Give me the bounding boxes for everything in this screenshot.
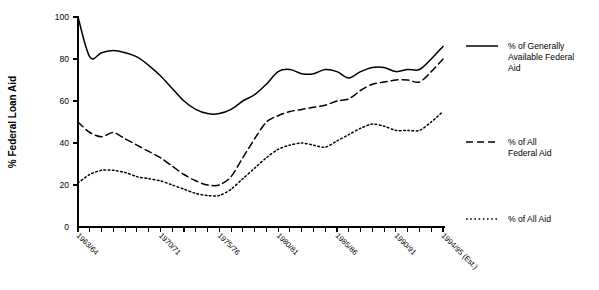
line-chart: 020406080100% Federal Loan Aid1963/64197… xyxy=(0,0,599,290)
y-axis-tick-label: 40 xyxy=(60,138,70,148)
y-axis-tick-label: 80 xyxy=(60,54,70,64)
x-axis-tick-label: 1963/64 xyxy=(75,231,101,257)
x-axis-tick-label: 1970/71 xyxy=(157,231,183,257)
y-axis-title: % Federal Loan Aid xyxy=(7,76,18,168)
chart-container: 020406080100% Federal Loan Aid1963/64197… xyxy=(0,0,599,290)
series-line-solid xyxy=(78,17,443,114)
x-axis-tick-label: 1975/76 xyxy=(216,231,242,257)
legend-item-label: Federal Aid xyxy=(508,148,552,158)
x-axis-tick-label: 1985/86 xyxy=(334,231,360,257)
legend-item-label: Aid xyxy=(508,63,521,73)
y-axis-tick-label: 100 xyxy=(55,12,69,22)
x-axis-tick-label: 1980/81 xyxy=(275,231,301,257)
y-axis-tick-label: 0 xyxy=(64,222,69,232)
x-axis-tick-label: 1990/91 xyxy=(392,231,418,257)
y-axis-tick-label: 60 xyxy=(60,96,70,106)
x-axis-tick-label: 1994/95 (Est.) xyxy=(440,231,480,271)
legend-item-label: % of All xyxy=(508,137,537,147)
legend-item-label: % of Generally xyxy=(508,41,565,51)
series-line-dotted xyxy=(78,112,443,196)
chart-axes xyxy=(78,16,445,227)
y-axis-tick-label: 20 xyxy=(60,180,70,190)
series-line-dashed xyxy=(78,59,443,186)
legend-item-label: Available Federal xyxy=(508,52,574,62)
legend-item-label: % of All Aid xyxy=(508,214,551,224)
